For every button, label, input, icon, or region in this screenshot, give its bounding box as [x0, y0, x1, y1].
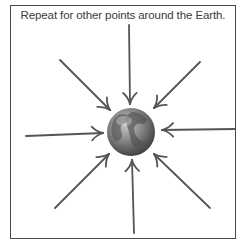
arrow-from-top: [123, 25, 137, 104]
arrow-from-bottom-left: [55, 154, 109, 208]
arrow-from-top-right: [154, 62, 200, 108]
earth-diagram: [0, 0, 241, 241]
earth-icon: [107, 108, 155, 156]
arrow-from-top-left: [60, 60, 110, 110]
arrow-from-bottom-right: [154, 154, 210, 208]
arrow-from-bottom: [126, 160, 140, 233]
arrow-from-left: [26, 127, 103, 141]
arrow-from-right: [162, 123, 235, 137]
